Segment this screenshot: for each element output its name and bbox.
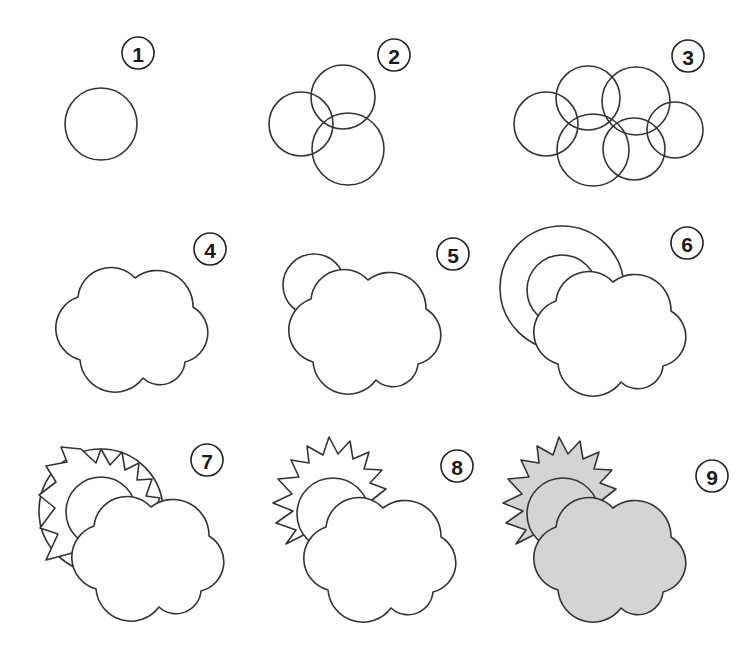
step-badge-2: 2 [378, 39, 410, 71]
circle-shape [647, 102, 703, 158]
step-badge-9: 9 [696, 460, 728, 492]
circle-shape [602, 67, 670, 135]
drawing-tutorial: 1 2 3 4 5 6 7 8 9 [0, 0, 739, 658]
step-6 [500, 226, 686, 396]
step-badge-8: 8 [441, 450, 473, 482]
circle-shape [269, 92, 333, 156]
step-badge-4: 4 [194, 233, 226, 265]
step-badge-7: 7 [191, 444, 223, 476]
step-badge-1: 1 [122, 37, 154, 69]
circle-shape [312, 113, 384, 185]
step-number: 6 [681, 233, 693, 256]
circle-shape [603, 118, 665, 180]
step-4 [56, 267, 208, 392]
step-9 [503, 437, 686, 622]
step-badge-5: 5 [437, 238, 469, 270]
step-1 [65, 88, 137, 160]
cloud-shape [56, 267, 208, 392]
step-number: 2 [388, 45, 400, 68]
step-5 [283, 254, 441, 394]
step-number: 4 [204, 239, 216, 262]
step-badge-3: 3 [672, 40, 704, 72]
circle-shape [311, 65, 375, 129]
step-number: 5 [447, 244, 459, 267]
step-badge-6: 6 [671, 227, 703, 259]
step-number: 9 [706, 466, 718, 489]
step-7 [39, 447, 224, 621]
circle-shape [65, 88, 137, 160]
step-3 [514, 66, 703, 186]
step-number: 1 [132, 43, 144, 66]
step-number: 8 [451, 456, 463, 479]
step-number: 3 [682, 46, 694, 69]
step-8 [273, 437, 456, 622]
step-number: 7 [201, 450, 213, 473]
step-2 [269, 65, 384, 185]
